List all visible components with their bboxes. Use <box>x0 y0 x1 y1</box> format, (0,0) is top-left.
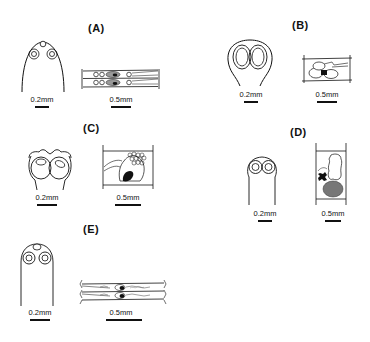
scale-label: 0.5mm <box>318 209 348 218</box>
panel-c-scolex-drawing <box>27 148 73 190</box>
panel-a-scale-right: 0.5mm <box>106 95 136 108</box>
scale-bar <box>258 220 272 222</box>
panel-d-scolex-drawing <box>246 155 278 205</box>
scale-bar <box>115 204 141 206</box>
scale-label: 0.2mm <box>32 193 62 202</box>
scale-bar <box>317 101 337 103</box>
scale-label: 0.5mm <box>113 193 143 202</box>
scale-bar <box>111 106 131 108</box>
panel-c-proglottid-drawing <box>100 145 156 191</box>
scale-label: 0.2mm <box>236 90 266 99</box>
panel-label-d: (D) <box>290 126 307 138</box>
panel-a-scolex-drawing <box>18 38 68 93</box>
panel-c-scale-left: 0.2mm <box>32 193 62 206</box>
panel-label-c: (C) <box>83 122 100 134</box>
panel-label-a: (A) <box>88 22 105 34</box>
scale-bar <box>106 319 142 321</box>
panel-d-scale-right: 0.5mm <box>318 209 348 222</box>
scale-bar <box>37 204 57 206</box>
panel-e-scale-right: 0.5mm <box>106 308 136 321</box>
panel-a-proglottid-drawing <box>82 68 160 90</box>
scale-bar <box>35 106 49 108</box>
panel-d-scale-left: 0.2mm <box>250 209 280 222</box>
panel-b-scale-right: 0.5mm <box>312 90 342 103</box>
panel-label-b: (B) <box>292 19 309 31</box>
scale-label: 0.5mm <box>106 95 136 104</box>
panel-b-scale-left: 0.2mm <box>236 90 266 103</box>
scale-label: 0.2mm <box>250 209 280 218</box>
panel-e-scale-left: 0.2mm <box>25 308 55 321</box>
panel-e-proglottid-drawing <box>80 280 166 306</box>
scale-label: 0.2mm <box>25 308 55 317</box>
scale-bar <box>325 220 341 222</box>
scale-bar <box>244 101 258 103</box>
panel-e-scolex-drawing <box>18 242 56 306</box>
panel-b-proglottid-drawing <box>302 55 352 85</box>
panel-a-scale-left: 0.2mm <box>27 95 57 108</box>
panel-c-scale-right: 0.5mm <box>113 193 143 206</box>
panel-d-proglottid-drawing <box>313 143 349 205</box>
scale-label: 0.5mm <box>312 90 342 99</box>
scale-label: 0.5mm <box>106 308 136 317</box>
scale-label: 0.2mm <box>27 95 57 104</box>
panel-b-scolex-drawing <box>226 38 274 88</box>
panel-label-e: (E) <box>83 223 99 235</box>
scale-bar <box>30 319 50 321</box>
